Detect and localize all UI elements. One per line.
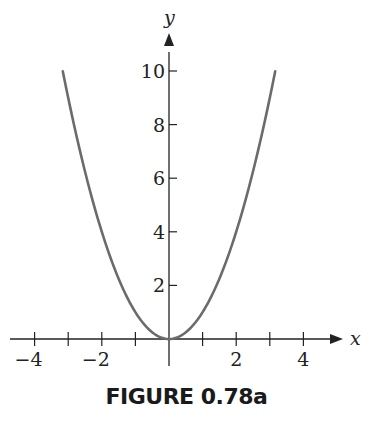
- x-axis-arrow-icon: [330, 334, 343, 344]
- y-tick-label: 8: [153, 114, 165, 136]
- x-tick-label: −4: [15, 348, 43, 370]
- plot-area: −4−224246810xy: [0, 0, 373, 370]
- x-tick-label: −2: [82, 348, 110, 370]
- y-axis-arrow-icon: [164, 33, 174, 46]
- figure-caption: FIGURE 0.78a: [0, 384, 373, 409]
- x-tick-label: 2: [230, 348, 242, 370]
- y-tick-label: 2: [153, 274, 165, 296]
- x-axis-label: x: [350, 327, 361, 349]
- y-axis-label: y: [163, 6, 175, 28]
- y-tick-label: 6: [153, 167, 165, 189]
- y-tick-label: 4: [153, 221, 165, 243]
- x-tick-label: 4: [297, 348, 309, 370]
- y-tick-label: 10: [141, 60, 165, 82]
